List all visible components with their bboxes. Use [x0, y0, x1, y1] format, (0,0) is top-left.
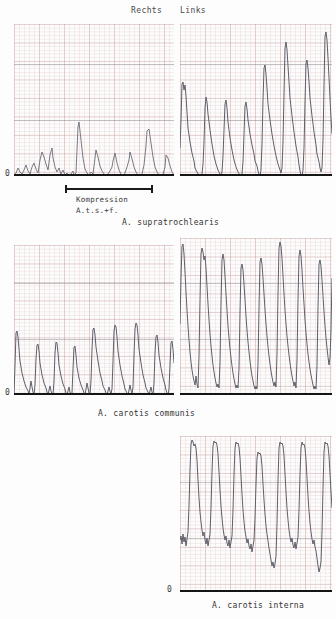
- waveform-trace-carotis-communis-rechts: [14, 245, 174, 395]
- column-header-links: Links: [180, 6, 206, 15]
- zero-baseline: [180, 174, 332, 176]
- caption-supratrochlearis: A. supratrochlearis: [122, 218, 219, 227]
- zero-baseline: [14, 174, 174, 176]
- zero-baseline: [180, 393, 332, 395]
- column-header-rechts: Rechts: [131, 6, 162, 15]
- chart-panel-carotis-communis-rechts: [14, 245, 174, 395]
- caption-carotis-communis: A. carotis communis: [98, 409, 195, 418]
- caption-carotis-interna: A. carotis interna: [212, 601, 304, 610]
- waveform-trace-carotis-communis-links: [180, 238, 332, 395]
- chart-panel-supratrochlearis-links: [180, 24, 332, 176]
- waveform-trace-supratrochlearis-links: [180, 24, 332, 176]
- zero-baseline: [180, 590, 332, 592]
- zero-baseline: [14, 393, 174, 395]
- chart-panel-carotis-communis-links: [180, 238, 332, 395]
- zero-label-supratrochlearis-rechts: 0: [5, 169, 10, 178]
- compression-interval-marker: [65, 188, 153, 190]
- zero-label-carotis-communis-rechts: 0: [5, 388, 10, 397]
- chart-panel-carotis-interna-links: [180, 436, 332, 592]
- compression-label: Kompression: [76, 195, 128, 204]
- waveform-trace-supratrochlearis-rechts: [14, 24, 174, 176]
- chart-panel-supratrochlearis-rechts: [14, 24, 174, 176]
- waveform-trace-carotis-interna-links: [180, 436, 332, 592]
- zero-label-carotis-interna-links: 0: [167, 585, 172, 594]
- compression-vessel-label: A.t.s.+f.: [76, 206, 118, 215]
- recording-sheet: Rechts Links 0 Kompression A.t.s.+f. A. …: [0, 0, 336, 619]
